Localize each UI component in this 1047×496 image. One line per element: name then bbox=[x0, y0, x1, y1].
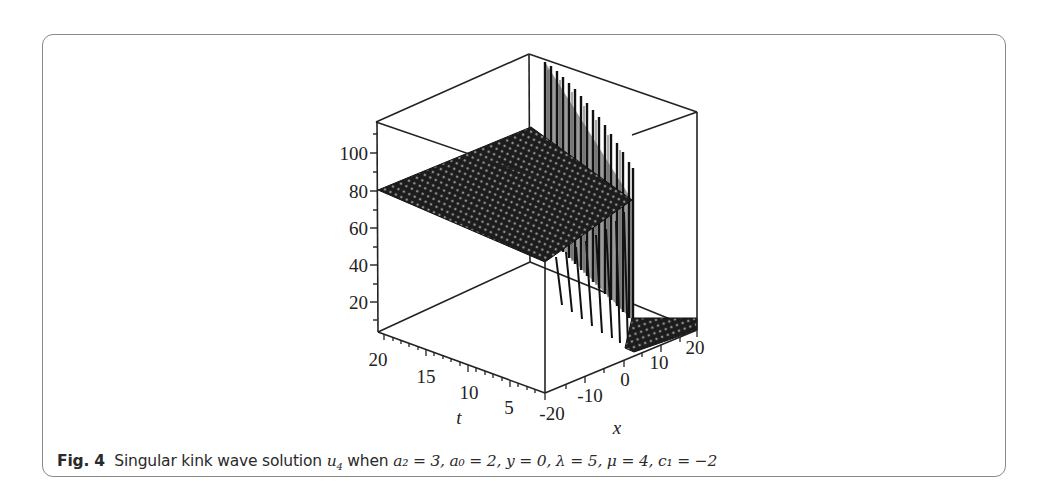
caption-symbol: u4 bbox=[327, 452, 343, 470]
x-axis-label: x bbox=[612, 417, 622, 438]
svg-text:10: 10 bbox=[650, 352, 669, 373]
caption-when: when bbox=[347, 452, 388, 470]
svg-text:-20: -20 bbox=[539, 403, 564, 424]
t-axis-label: t bbox=[456, 407, 462, 428]
z-axis-labels: 100 80 60 40 20 bbox=[340, 143, 369, 313]
caption-params: a₂ = 3, a₀ = 2, y = 0, λ = 5, μ = 4, c₁ … bbox=[393, 452, 717, 470]
svg-text:80: 80 bbox=[349, 181, 368, 202]
z-axis-ticks bbox=[370, 134, 377, 320]
t-axis-labels: 20 15 10 5 bbox=[369, 349, 514, 418]
svg-text:15: 15 bbox=[417, 366, 436, 387]
svg-text:10: 10 bbox=[460, 382, 479, 403]
x-axis-labels: -20 -10 0 10 20 bbox=[539, 337, 704, 424]
svg-text:20: 20 bbox=[369, 349, 388, 370]
caption-text: Singular kink wave solution bbox=[114, 452, 322, 470]
svg-text:20: 20 bbox=[349, 292, 368, 313]
svg-text:20: 20 bbox=[686, 337, 705, 358]
svg-text:-10: -10 bbox=[577, 385, 602, 406]
svg-text:0: 0 bbox=[620, 369, 630, 390]
surface-plot: 100 80 60 40 20 20 15 10 5 t bbox=[0, 0, 1047, 496]
svg-text:40: 40 bbox=[349, 255, 368, 276]
svg-text:60: 60 bbox=[349, 218, 368, 239]
svg-text:5: 5 bbox=[504, 397, 514, 418]
figure-label: Fig. 4 bbox=[57, 452, 105, 470]
figure-caption: Fig. 4 Singular kink wave solution u4 wh… bbox=[57, 452, 717, 472]
svg-text:100: 100 bbox=[340, 143, 369, 164]
